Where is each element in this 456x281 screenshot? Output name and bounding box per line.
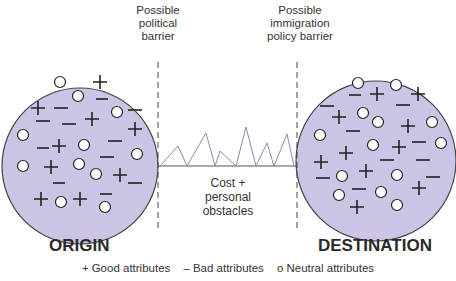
circle-icon: o [277,262,283,274]
immigration-barrier-label: Possible immigration policy barrier [252,4,348,43]
political-barrier-label: Possible political barrier [113,4,203,43]
obstacles-label: Cost + personal obstacles [182,176,274,218]
destination-circle [296,78,456,242]
legend-good: +Good attributes [82,262,170,274]
destination-label: DESTINATION [318,236,432,256]
origin-label: ORIGIN [49,236,109,256]
plus-icon: + [82,262,89,274]
legend: +Good attributes –Bad attributes oNeutra… [0,262,456,274]
legend-bad: –Bad attributes [184,262,264,274]
minus-icon: – [184,262,190,274]
legend-neutral: oNeutral attributes [277,262,374,274]
origin-circle [2,75,158,244]
obstacles-graph [158,127,297,166]
